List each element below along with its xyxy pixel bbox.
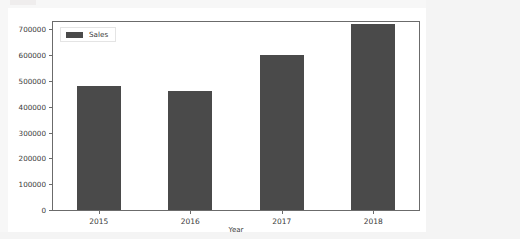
x-tick-mark bbox=[282, 210, 283, 214]
page-right-margin bbox=[426, 0, 520, 239]
y-tick-label: 400000 bbox=[19, 102, 46, 111]
x-tick-label: 2015 bbox=[89, 217, 108, 226]
y-tick-label: 200000 bbox=[19, 154, 46, 163]
y-tick-mark bbox=[49, 29, 53, 30]
x-tick-mark bbox=[99, 210, 100, 214]
page-top-artifact bbox=[10, 0, 36, 5]
y-tick-label: 0 bbox=[41, 206, 46, 215]
y-tick-mark bbox=[49, 184, 53, 185]
plot-inner bbox=[53, 22, 419, 210]
bar-slot bbox=[236, 22, 328, 210]
legend-swatch-sales bbox=[66, 32, 83, 38]
x-tick-mark bbox=[373, 210, 374, 214]
y-tick-mark bbox=[49, 158, 53, 159]
bar-2017 bbox=[260, 55, 304, 210]
y-tick-label: 500000 bbox=[19, 76, 46, 85]
x-tick-mark bbox=[190, 210, 191, 214]
y-tick-mark bbox=[49, 210, 53, 211]
bar-2016 bbox=[168, 91, 212, 210]
y-tick-label: 700000 bbox=[19, 25, 46, 34]
bar-2015 bbox=[77, 86, 121, 210]
y-tick-mark bbox=[49, 107, 53, 108]
y-tick-label: 600000 bbox=[19, 51, 46, 60]
y-tick-mark bbox=[49, 55, 53, 56]
bar-2018 bbox=[351, 24, 395, 210]
bar-slot bbox=[328, 22, 420, 210]
y-tick-mark bbox=[49, 133, 53, 134]
chart-legend: Sales bbox=[60, 27, 116, 42]
bar-slot bbox=[145, 22, 237, 210]
y-tick-mark bbox=[49, 81, 53, 82]
x-tick-label: 2017 bbox=[272, 217, 291, 226]
x-tick-label: 2018 bbox=[364, 217, 383, 226]
y-tick-label: 300000 bbox=[19, 128, 46, 137]
page-root: 0100000200000300000400000500000600000700… bbox=[0, 0, 520, 239]
x-axis-title: Year bbox=[52, 226, 420, 234]
bar-chart: 0100000200000300000400000500000600000700… bbox=[8, 8, 426, 232]
chart-figure-card: 0100000200000300000400000500000600000700… bbox=[8, 8, 426, 232]
plot-area: 0100000200000300000400000500000600000700… bbox=[52, 21, 420, 211]
legend-label-sales: Sales bbox=[89, 31, 108, 38]
bar-slot bbox=[53, 22, 145, 210]
bar-series-sales bbox=[53, 22, 419, 210]
x-tick-label: 2016 bbox=[181, 217, 200, 226]
y-tick-label: 100000 bbox=[19, 180, 46, 189]
